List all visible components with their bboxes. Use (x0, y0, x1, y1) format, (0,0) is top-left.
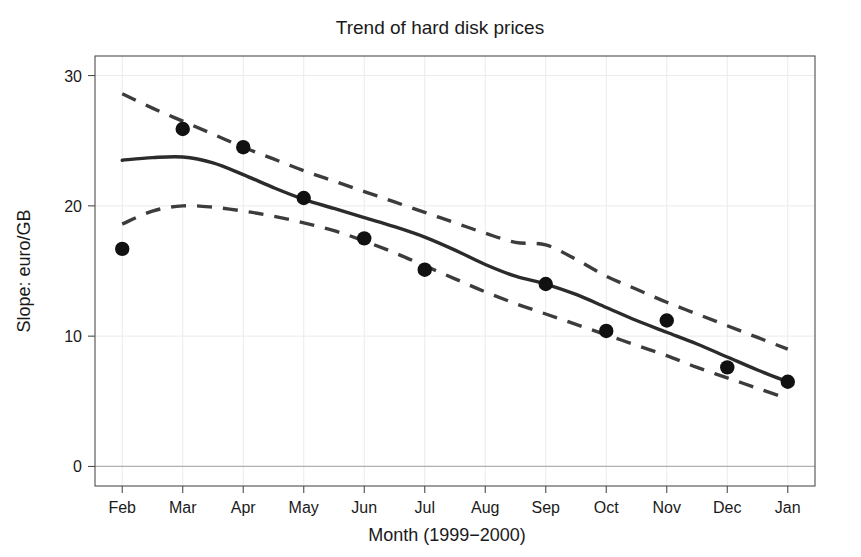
data-point (297, 191, 311, 205)
y-tick-label: 10 (64, 328, 82, 345)
data-point (357, 231, 371, 245)
plot-background (95, 56, 815, 486)
data-point (236, 140, 250, 154)
x-tick-label: Feb (108, 499, 136, 516)
x-tick-label: Sep (532, 499, 561, 516)
x-axis-title: Month (1999−2000) (368, 525, 526, 545)
data-point (720, 360, 734, 374)
y-axis-ticks: 0102030 (64, 68, 95, 476)
x-tick-label: May (289, 499, 319, 516)
x-tick-label: Jul (415, 499, 435, 516)
data-point (599, 324, 613, 338)
x-tick-label: Mar (169, 499, 197, 516)
y-tick-label: 20 (64, 198, 82, 215)
x-tick-label: Nov (653, 499, 681, 516)
chart-container: 0102030 FebMarAprMayJunJulAugSepOctNovDe… (0, 0, 861, 557)
x-axis-ticks: FebMarAprMayJunJulAugSepOctNovDecJan (108, 486, 800, 516)
data-point (781, 375, 795, 389)
data-point (418, 263, 432, 277)
x-tick-label: Apr (231, 499, 257, 516)
data-point (115, 242, 129, 256)
y-tick-label: 0 (73, 458, 82, 475)
data-point (539, 277, 553, 291)
chart-title: Trend of hard disk prices (336, 17, 544, 38)
y-axis-title: Slope: euro/GB (14, 209, 34, 332)
hard-disk-price-trend-chart: 0102030 FebMarAprMayJunJulAugSepOctNovDe… (0, 0, 861, 557)
x-tick-label: Aug (471, 499, 499, 516)
data-point (660, 313, 674, 327)
x-tick-label: Dec (713, 499, 741, 516)
x-tick-label: Oct (594, 499, 619, 516)
y-tick-label: 30 (64, 68, 82, 85)
data-point (176, 122, 190, 136)
x-tick-label: Jun (351, 499, 377, 516)
x-tick-label: Jan (775, 499, 801, 516)
